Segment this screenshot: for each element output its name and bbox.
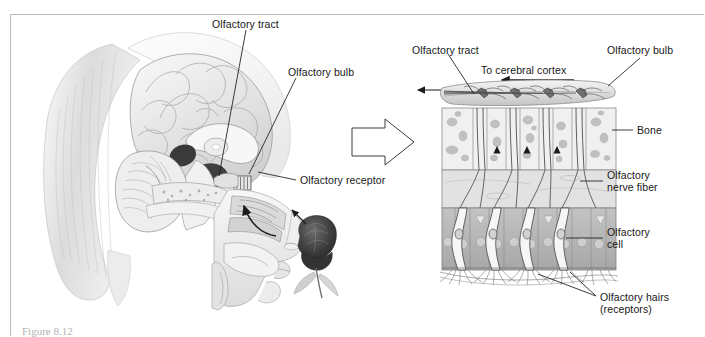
label-olfactory-nerve-fiber-line2: nerve fiber	[607, 181, 658, 193]
olfactory-cilia-layer	[440, 270, 618, 285]
cilia-strands	[440, 270, 616, 285]
label-olfactory-cell-line1: Olfactory	[607, 226, 650, 238]
label-olfactory-hairs-line1: Olfactory hairs	[600, 291, 669, 303]
olfactory-epithelium-layer	[442, 208, 616, 270]
face-profile	[212, 190, 305, 310]
label-to-cerebral-cortex: To cerebral cortex	[481, 64, 566, 76]
label-bone: Bone	[637, 124, 662, 136]
olfactory-bulb-layer	[440, 80, 615, 106]
cribriform-bone-layer	[442, 108, 616, 170]
submucosa-layer	[442, 170, 616, 208]
label-olfactory-nerve-fiber-line1: Olfactory	[607, 169, 650, 181]
label-olfactory-hairs-line2: (receptors)	[600, 303, 652, 315]
figure-caption: Figure 8.12	[22, 325, 73, 337]
label-olfactory-bulb-right: Olfactory bulb	[607, 44, 673, 56]
label-olfactory-receptor: Olfactory receptor	[300, 174, 385, 186]
label-olfactory-tract-right: Olfactory tract	[412, 44, 479, 56]
magnification-arrow	[352, 119, 414, 165]
label-olfactory-cell-line2: cell	[607, 238, 623, 250]
rose-flower	[294, 216, 338, 298]
label-olfactory-tract-left: Olfactory tract	[212, 18, 279, 30]
label-olfactory-bulb-left: Olfactory bulb	[288, 66, 354, 78]
